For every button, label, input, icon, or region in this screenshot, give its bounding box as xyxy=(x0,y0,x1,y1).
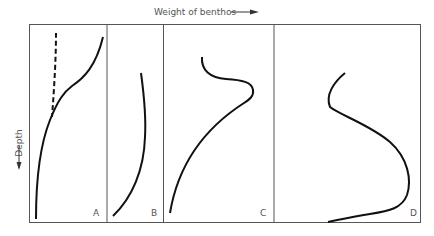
curve-b xyxy=(113,73,145,216)
panel-label-c: C xyxy=(260,208,266,218)
x-axis-label: Weight of benthos xyxy=(154,7,236,17)
curve-d xyxy=(328,73,409,222)
curve-c xyxy=(170,57,253,213)
panel-label-d: D xyxy=(410,208,417,218)
curve-a-solid xyxy=(36,37,103,219)
curve-a-dashed xyxy=(52,33,56,117)
panel-c: C xyxy=(170,57,266,218)
panel-b: B xyxy=(113,73,157,218)
panel-d: D xyxy=(328,73,417,222)
benthos-depth-diagram: Weight of benthos Depth A B C D xyxy=(0,0,434,236)
panel-label-a: A xyxy=(93,208,100,218)
panel-a: A xyxy=(36,33,103,219)
panel-label-b: B xyxy=(151,208,157,218)
